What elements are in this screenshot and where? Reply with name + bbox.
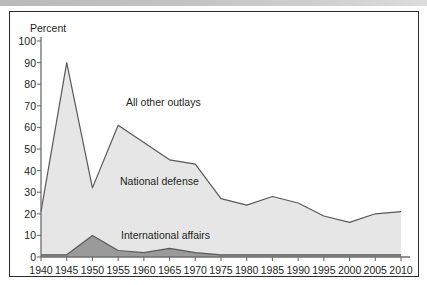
chart-areas <box>41 63 401 257</box>
y-axis-tick-label: 90 <box>10 58 36 69</box>
y-axis-tick-label: 100 <box>10 36 36 47</box>
y-axis-tick-label: 60 <box>10 122 36 133</box>
area-all-other-outlays <box>41 63 401 257</box>
x-axis-tick-label: 2010 <box>388 265 414 276</box>
area-chart-plot <box>10 12 420 278</box>
y-axis-tick-label: 70 <box>10 101 36 112</box>
x-axis-tick-label: 1980 <box>234 265 260 276</box>
x-axis-tick-label: 1955 <box>105 265 131 276</box>
x-axis-tick-label: 2005 <box>362 265 388 276</box>
y-axis-tick-label: 30 <box>10 187 36 198</box>
series-label-international-affairs: International affairs <box>121 230 210 241</box>
x-axis-tick-label: 1945 <box>54 265 80 276</box>
y-axis-tick-label: 0 <box>10 252 36 263</box>
x-axis-tick-label: 1965 <box>157 265 183 276</box>
x-axis-tick-label: 1950 <box>79 265 105 276</box>
y-axis-title: Percent <box>30 23 66 34</box>
x-axis-tick-label: 1990 <box>285 265 311 276</box>
y-axis-tick-label: 80 <box>10 79 36 90</box>
y-axis-tick-label: 50 <box>10 144 36 155</box>
x-axis-tick-label: 1985 <box>259 265 285 276</box>
x-axis-tick-label: 1940 <box>28 265 54 276</box>
x-axis-tick-label: 1995 <box>311 265 337 276</box>
x-axis-tick-label: 1970 <box>182 265 208 276</box>
page-top-gradient-bar <box>0 0 427 6</box>
chart-figure: Percent 1009080706050403020100 194019451… <box>9 11 419 277</box>
y-axis-tick-label: 40 <box>10 166 36 177</box>
x-axis-tick-label: 1975 <box>208 265 234 276</box>
series-label-all-other-outlays: All other outlays <box>126 97 201 108</box>
series-label-national-defense: National defense <box>120 176 199 187</box>
x-axis-tick-label: 2000 <box>337 265 363 276</box>
y-axis-tick-label: 10 <box>10 230 36 241</box>
y-axis-tick-label: 20 <box>10 209 36 220</box>
x-axis-tick-label: 1960 <box>131 265 157 276</box>
